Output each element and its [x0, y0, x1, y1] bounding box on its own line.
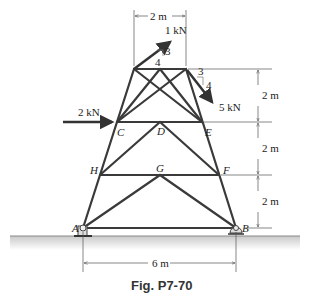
truss-members	[83, 69, 236, 228]
truss-diagram: 1 kN 3 4 3 4 5 kN 2 kN C D E H G F A B 2…	[0, 0, 312, 296]
load-5kn-label: 5 kN	[219, 101, 241, 113]
load-2kn-label: 2 kN	[78, 106, 100, 118]
load-1kn-slope-run: 4	[155, 56, 161, 68]
node-label-c: C	[117, 126, 125, 138]
ground	[10, 236, 300, 250]
dimension-height-1-label: 2 m	[262, 89, 279, 101]
load-1kn-label: 1 kN	[165, 24, 187, 36]
figure-caption: Fig. P7-70	[131, 278, 192, 293]
dimension-base-width-label: 6 m	[152, 257, 169, 269]
dimension-height-2-label: 2 m	[262, 142, 279, 154]
node-label-a: A	[71, 222, 79, 234]
load-5kn-slope-run: 3	[198, 65, 204, 77]
node-label-e: E	[204, 126, 212, 138]
load-1kn-slope-rise: 3	[165, 45, 171, 57]
node-label-f: F	[222, 164, 230, 176]
node-label-h: H	[89, 164, 99, 176]
load-5kn-slope-rise: 4	[206, 79, 212, 91]
node-label-g: G	[156, 162, 164, 174]
node-label-d: D	[156, 125, 165, 137]
dimension-top-width-label: 2 m	[150, 10, 167, 22]
dimension-height-3-label: 2 m	[262, 195, 279, 207]
